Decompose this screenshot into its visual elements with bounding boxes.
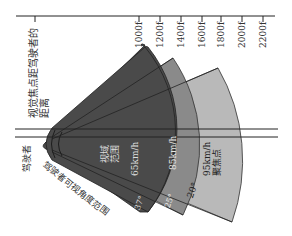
tick-label-2200: 2200f	[258, 22, 268, 48]
view-range-line1: 视域	[100, 145, 110, 163]
focus-point-label: 聚焦点	[212, 142, 222, 176]
tick-label-1200: 1200f	[155, 22, 165, 48]
tick-label-1800: 1800f	[216, 22, 226, 48]
view-range-line2: 范围	[110, 145, 120, 163]
tick-label-2000: 2000f	[237, 22, 247, 48]
speed-95-label: 95km/h	[202, 142, 212, 176]
axis-title: 视觉焦点距驾驶者的 距离	[28, 28, 50, 118]
tick-label-1000: 1000f	[134, 22, 144, 48]
tick-label-1600: 1600f	[197, 22, 207, 48]
driver-label: 驾驶者	[20, 145, 33, 172]
axis-title-line1: 视觉焦点距驾驶者的	[28, 28, 39, 118]
view-range-label: 视域 范围	[100, 145, 120, 163]
axis-title-line2: 距离	[39, 28, 50, 118]
speed-85-label: 85km/h	[168, 136, 178, 170]
axis-ticks	[35, 16, 263, 22]
speed-65-label: 65km/h	[130, 142, 140, 176]
speed-95-group: 95km/h 聚焦点	[202, 142, 222, 176]
tick-label-1400: 1400f	[176, 22, 186, 48]
